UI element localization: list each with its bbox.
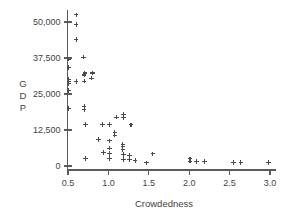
x-tick-marks bbox=[68, 170, 270, 175]
data-point bbox=[127, 153, 132, 158]
data-point bbox=[100, 122, 105, 127]
data-point bbox=[202, 159, 207, 164]
x-tick-label-4: 2.5 bbox=[223, 178, 236, 188]
data-point bbox=[83, 156, 88, 161]
x-tick-label-2: 1.5 bbox=[143, 178, 156, 188]
y-tick-label-0: 0 bbox=[55, 161, 60, 171]
y-tick-labels: 012,50025,00037,50050,000 bbox=[33, 17, 61, 171]
data-point bbox=[121, 152, 126, 157]
data-point bbox=[121, 147, 126, 152]
data-point bbox=[74, 37, 79, 42]
data-point bbox=[114, 115, 119, 120]
y-tick-label-1: 12,500 bbox=[33, 125, 61, 135]
data-point bbox=[90, 71, 95, 76]
data-point bbox=[82, 107, 87, 112]
data-point bbox=[96, 137, 101, 142]
data-point bbox=[107, 146, 112, 151]
scatter-chart: 012,50025,00037,50050,000 0.51.01.52.02.… bbox=[0, 0, 284, 222]
x-axis-title: Crowdedness bbox=[135, 198, 193, 209]
data-point bbox=[81, 55, 86, 60]
data-point bbox=[107, 156, 112, 161]
y-tick-label-4: 50,000 bbox=[33, 17, 61, 27]
data-point bbox=[151, 152, 156, 157]
data-point bbox=[107, 151, 112, 156]
data-point bbox=[194, 159, 199, 164]
data-point bbox=[231, 160, 236, 165]
y-axis: 012,50025,00037,50050,000 bbox=[33, 10, 72, 171]
y-axis-title: GDP bbox=[19, 78, 26, 113]
data-point bbox=[101, 150, 106, 155]
chart-canvas: 012,50025,00037,50050,000 0.51.01.52.02.… bbox=[0, 0, 284, 222]
x-tick-label-0: 0.5 bbox=[62, 178, 75, 188]
x-axis: 0.51.01.52.02.53.0 bbox=[62, 170, 277, 188]
data-point bbox=[133, 158, 138, 163]
data-point bbox=[266, 160, 271, 165]
data-point bbox=[239, 160, 244, 165]
data-point bbox=[74, 22, 79, 27]
data-point bbox=[89, 76, 94, 81]
data-point bbox=[74, 79, 79, 84]
data-point bbox=[82, 79, 87, 84]
data-point bbox=[107, 139, 112, 144]
x-tick-label-1: 1.0 bbox=[102, 178, 115, 188]
data-point bbox=[144, 161, 149, 166]
y-axis-title-letter-1: D bbox=[20, 90, 27, 101]
data-points-layer bbox=[67, 13, 271, 166]
data-point bbox=[188, 159, 193, 164]
y-axis-title-letter-2: P bbox=[20, 102, 26, 113]
y-axis-title-letter-0: G bbox=[19, 78, 26, 89]
x-tick-labels: 0.51.01.52.02.53.0 bbox=[62, 178, 277, 188]
x-tick-label-3: 2.0 bbox=[183, 178, 196, 188]
x-tick-label-5: 3.0 bbox=[264, 178, 277, 188]
data-point bbox=[83, 122, 88, 127]
y-tick-label-2: 25,000 bbox=[33, 89, 61, 99]
data-point bbox=[74, 13, 79, 18]
data-point bbox=[127, 158, 132, 163]
data-point bbox=[113, 133, 118, 138]
data-point bbox=[107, 122, 112, 127]
data-point bbox=[129, 123, 134, 128]
data-point bbox=[121, 157, 126, 162]
data-point bbox=[121, 115, 126, 120]
y-tick-label-3: 37,500 bbox=[33, 53, 61, 63]
